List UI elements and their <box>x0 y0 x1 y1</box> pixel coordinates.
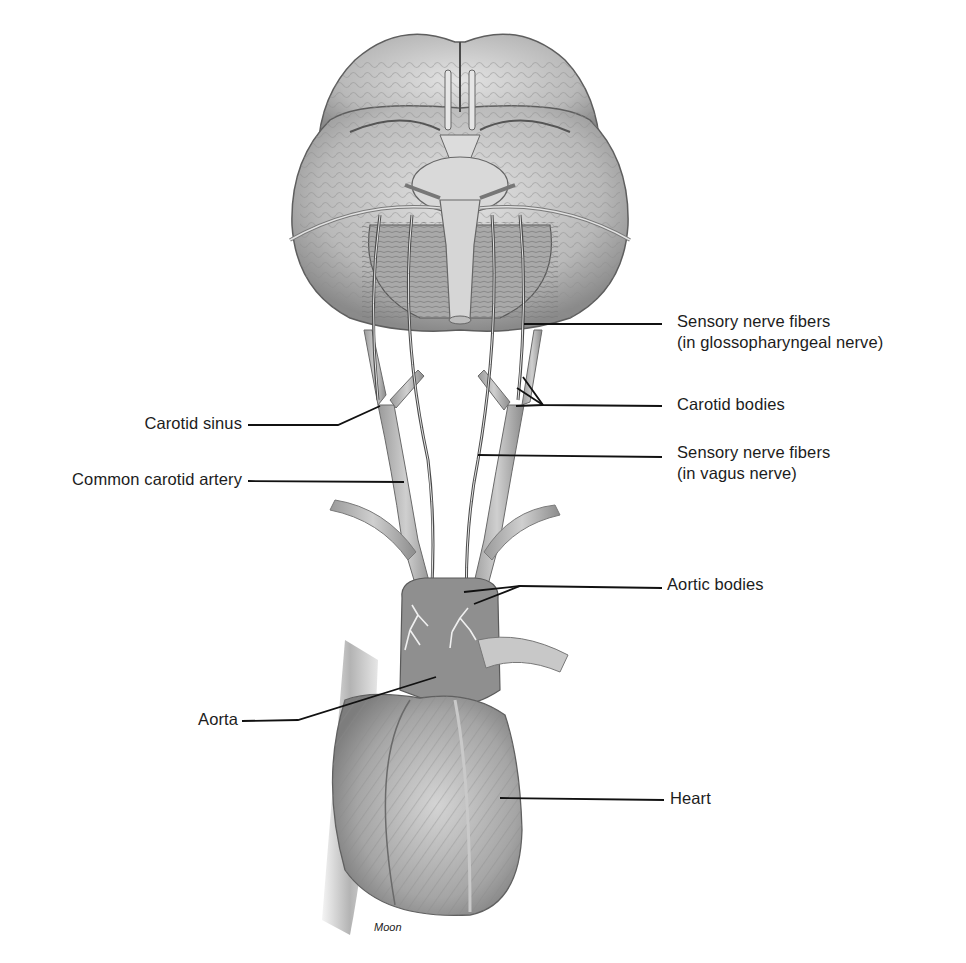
label-sensory-vagus: Sensory nerve fibers (in vagus nerve) <box>677 442 830 484</box>
brain <box>290 34 630 331</box>
label-common-carotid-artery: Common carotid artery <box>72 469 242 490</box>
label-aorta: Aorta <box>198 709 238 730</box>
anatomy-diagram: Sensory nerve fibers (in glossopharyngea… <box>0 0 966 963</box>
label-sensory-vagus-line2: (in vagus nerve) <box>677 463 830 484</box>
carotid-arteries <box>330 330 560 600</box>
aortic-arch <box>400 578 568 706</box>
label-carotid-bodies: Carotid bodies <box>677 394 785 415</box>
label-sensory-glossopharyngeal: Sensory nerve fibers (in glossopharyngea… <box>677 311 883 353</box>
illustrator-credit: Moon <box>374 921 402 933</box>
label-aortic-bodies: Aortic bodies <box>667 574 764 595</box>
label-heart: Heart <box>670 788 711 809</box>
label-sensory-vagus-line1: Sensory nerve fibers <box>677 442 830 463</box>
label-sensory-glossopharyngeal-line1: Sensory nerve fibers <box>677 311 883 332</box>
heart <box>333 694 523 915</box>
label-sensory-glossopharyngeal-line2: (in glossopharyngeal nerve) <box>677 332 883 353</box>
label-carotid-sinus: Carotid sinus <box>144 413 242 434</box>
